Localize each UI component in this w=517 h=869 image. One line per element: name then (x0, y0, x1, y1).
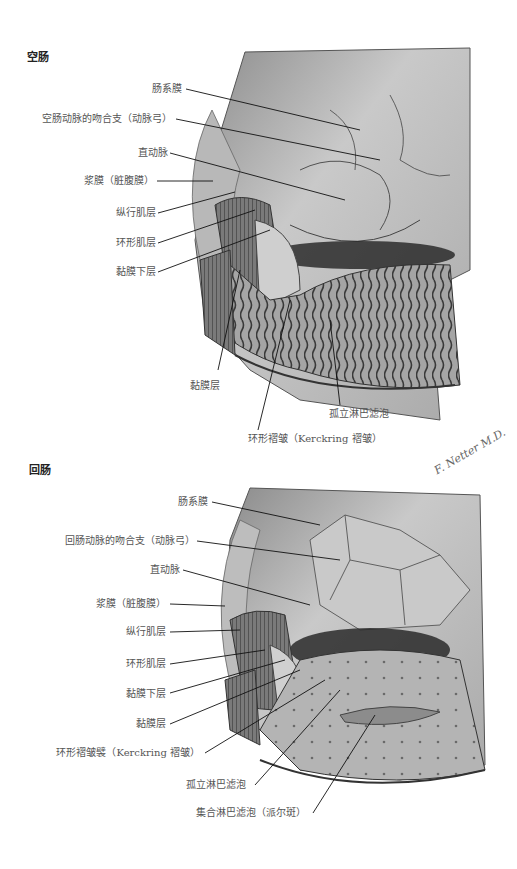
label-solitary-lymphoid-nodule-ileum: 孤立淋巴滤泡 (186, 779, 246, 791)
label-peyers-patch: 集合淋巴滤泡（派尔斑） (196, 807, 306, 819)
ileum-title: 回肠 (29, 461, 51, 477)
label-jejunal-arterial-arcades: 空肠动脉的吻合支（动脉弓） (20, 113, 172, 125)
label-vasa-recta-ileum: 直动脉 (130, 564, 180, 576)
label-serosa-ileum: 浆膜（脏腹膜） (70, 598, 166, 610)
label-circular-muscle: 环形肌层 (100, 237, 156, 249)
ileum-illustration (221, 488, 485, 783)
jejunum-illustration (192, 48, 470, 420)
label-mucosa: 黏膜层 (190, 380, 220, 392)
label-mesentery-ileum: 肠系膜 (146, 496, 208, 508)
label-longitudinal-muscle: 纵行肌层 (100, 207, 156, 219)
jejunum-title: 空肠 (27, 48, 49, 64)
label-longitudinal-muscle-ileum: 纵行肌层 (110, 626, 166, 638)
label-vasa-recta: 直动脉 (120, 147, 168, 159)
label-circular-folds-ileum: 环形褶皱襞（Kerckring 褶皱） (30, 747, 200, 759)
label-circular-folds: 环形褶皱（Kerckring 褶皱） (248, 433, 382, 445)
label-ileal-arterial-arcades: 回肠动脉的吻合支（动脉弓） (40, 535, 195, 547)
label-solitary-lymphoid-nodule: 孤立淋巴滤泡 (329, 408, 389, 420)
label-circular-muscle-ileum: 环形肌层 (110, 658, 166, 670)
label-mucosa-ileum: 黏膜层 (120, 718, 166, 730)
label-submucosa-ileum: 黏膜下层 (110, 688, 166, 700)
label-serosa: 浆膜（脏腹膜） (60, 175, 154, 187)
label-submucosa: 黏膜下层 (100, 266, 156, 278)
label-mesentery: 肠系膜 (122, 83, 182, 95)
